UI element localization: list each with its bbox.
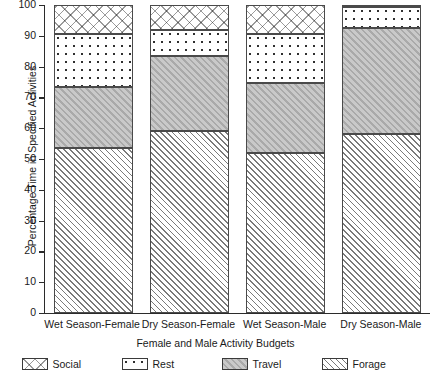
y-axis-tick-label: 40 bbox=[24, 183, 36, 196]
bar-stack[interactable] bbox=[342, 5, 421, 313]
bar-segment-social[interactable] bbox=[246, 5, 325, 34]
y-axis-tick-label: 80 bbox=[24, 60, 36, 73]
bar-segment-forage[interactable] bbox=[246, 153, 325, 313]
legend-item-travel[interactable]: Travel bbox=[216, 358, 316, 370]
bar-segment-travel[interactable] bbox=[150, 56, 229, 131]
y-axis-tick-label: 30 bbox=[24, 214, 36, 227]
stacked-bar-chart: Percentage Time in Specified Activities … bbox=[0, 0, 431, 378]
y-axis-tick-label: 60 bbox=[24, 121, 36, 134]
y-axis-tick-label: 0 bbox=[30, 306, 36, 319]
y-axis-tick-label: 50 bbox=[24, 152, 36, 165]
y-axis-tick-label: 100 bbox=[18, 0, 36, 11]
y-axis-tick-label: 70 bbox=[24, 90, 36, 103]
legend-swatch-rest bbox=[122, 358, 148, 370]
bar-segment-social[interactable] bbox=[54, 5, 133, 34]
bar-segment-forage[interactable] bbox=[150, 131, 229, 313]
bar-stack[interactable] bbox=[246, 5, 325, 313]
x-axis-tick-label: Dry Season-Female bbox=[140, 318, 236, 331]
legend-label: Travel bbox=[253, 358, 282, 370]
legend-swatch-travel bbox=[222, 358, 248, 370]
legend-swatch-social bbox=[22, 358, 48, 370]
bar-segment-rest[interactable] bbox=[246, 34, 325, 83]
bar-segment-forage[interactable] bbox=[342, 134, 421, 313]
legend-label: Social bbox=[53, 358, 82, 370]
legend-item-social[interactable]: Social bbox=[16, 358, 116, 370]
legend-swatch-forage bbox=[322, 358, 348, 370]
bar-segment-travel[interactable] bbox=[54, 87, 133, 149]
bar-segment-rest[interactable] bbox=[150, 30, 229, 56]
chart-legend: SocialRestTravelForage bbox=[0, 358, 431, 370]
bar-segment-social[interactable] bbox=[150, 5, 229, 30]
y-axis-tick-label: 90 bbox=[24, 29, 36, 42]
bar-segment-forage[interactable] bbox=[54, 148, 133, 313]
bar-segment-rest[interactable] bbox=[54, 34, 133, 87]
bar-segment-travel[interactable] bbox=[246, 83, 325, 153]
y-axis-tick-label: 10 bbox=[24, 275, 36, 288]
legend-item-rest[interactable]: Rest bbox=[116, 358, 216, 370]
x-axis-tick-label: Wet Season-Male bbox=[237, 318, 333, 331]
x-axis-tick-label: Dry Season-Male bbox=[333, 318, 429, 331]
x-axis-tick-label: Wet Season-Female bbox=[44, 318, 140, 331]
bar-segment-social[interactable] bbox=[342, 5, 421, 7]
bar-stack[interactable] bbox=[150, 5, 229, 313]
legend-label: Forage bbox=[353, 358, 386, 370]
plot-area bbox=[44, 5, 430, 314]
legend-item-forage[interactable]: Forage bbox=[316, 358, 416, 370]
bar-segment-rest[interactable] bbox=[342, 7, 421, 28]
y-axis-tick-label: 20 bbox=[24, 244, 36, 257]
x-axis-title: Female and Male Activity Budgets bbox=[0, 337, 431, 349]
bar-segment-travel[interactable] bbox=[342, 28, 421, 134]
bar-stack[interactable] bbox=[54, 5, 133, 313]
legend-label: Rest bbox=[153, 358, 175, 370]
